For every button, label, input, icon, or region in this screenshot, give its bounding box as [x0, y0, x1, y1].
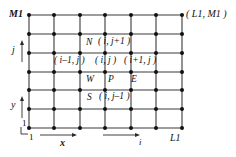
grid-node	[103, 13, 107, 17]
origin-corner-bracket	[21, 127, 28, 134]
label-stencil-east-index: ( i+1, j )	[124, 56, 156, 66]
grid-node	[78, 32, 82, 36]
grid-node	[103, 126, 107, 130]
grid-node	[27, 107, 31, 111]
grid-node	[180, 32, 184, 36]
grid-node	[103, 70, 107, 74]
grid-node	[180, 51, 184, 55]
grid-node	[52, 13, 56, 17]
label-stencil-center-index: ( i, j )	[95, 56, 116, 66]
grid-node	[52, 32, 56, 36]
grid-node	[52, 88, 56, 92]
grid-node	[129, 126, 133, 130]
grid-node	[52, 107, 56, 111]
label-axis-y: y	[11, 100, 15, 110]
grid-node	[154, 70, 158, 74]
label-axis-x: x	[60, 138, 65, 148]
grid-node	[27, 13, 31, 17]
label-axis-i: i	[139, 138, 142, 147]
label-bottom-right-L1: L1	[170, 133, 181, 143]
grid-node	[180, 13, 184, 17]
grid-node	[27, 70, 31, 74]
label-stencil-center: P	[108, 75, 114, 85]
grid-node	[103, 107, 107, 111]
grid-node	[180, 70, 184, 74]
label-top-left-M1: M1	[9, 9, 23, 19]
grid-node	[129, 107, 133, 111]
grid-node	[52, 70, 56, 74]
label-stencil-north: N	[86, 38, 92, 48]
label-stencil-east: E	[131, 75, 137, 85]
label-bottom-left-vertical-one: 1	[22, 119, 27, 128]
label-stencil-south-index: ( i, j–1 )	[99, 92, 130, 102]
grid-diagram-figure: M1 ( L1, M1 ) j y 1 1 x i L1 N ( i, j+1 …	[0, 0, 236, 157]
label-stencil-west: W	[86, 75, 94, 85]
grid-node	[27, 51, 31, 55]
grid-node	[78, 70, 82, 74]
grid-node	[154, 126, 158, 130]
grid-node	[52, 126, 56, 130]
grid-node	[27, 126, 31, 130]
grid-node	[154, 13, 158, 17]
label-stencil-south: S	[87, 93, 92, 103]
j-axis-arrowhead	[20, 40, 24, 45]
label-axis-j: j	[12, 45, 15, 55]
label-stencil-north-index: ( i, j+1 )	[98, 37, 130, 47]
grid-node	[27, 88, 31, 92]
x-axis-arrowhead	[72, 133, 77, 137]
label-top-right-corner-coords: ( L1, M1 )	[186, 9, 227, 19]
grid-node	[78, 107, 82, 111]
y-axis-arrowhead	[20, 96, 24, 101]
grid-node	[180, 88, 184, 92]
grid-node	[154, 32, 158, 36]
grid-node	[154, 107, 158, 111]
label-stencil-west-index: ( i–1, j )	[54, 56, 85, 66]
grid-node	[180, 107, 184, 111]
grid-canvas	[0, 0, 236, 157]
grid-node	[129, 13, 133, 17]
grid-node	[78, 13, 82, 17]
grid-node	[27, 32, 31, 36]
grid-node	[78, 126, 82, 130]
grid-node	[78, 88, 82, 92]
grid-node	[154, 88, 158, 92]
label-bottom-left-horizontal-one: 1	[29, 133, 34, 142]
grid-node	[180, 126, 184, 130]
